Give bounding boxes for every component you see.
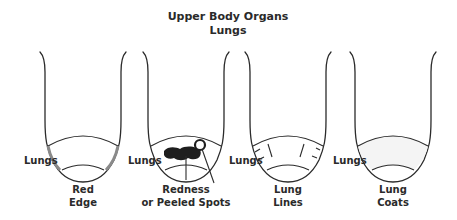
zone-label-lungs: Lungs [24, 155, 58, 166]
lung-line [312, 156, 317, 158]
lung-line [255, 149, 260, 152]
caption-line2: Edge [69, 197, 97, 208]
zone-label-lungs: Lungs [229, 155, 263, 166]
tongue-red-edge: Lungs Red Edge [24, 52, 126, 208]
caption-line2: Coats [377, 197, 409, 208]
lung-zone-upper-boundary [151, 136, 221, 146]
lung-zone-upper-boundary [253, 136, 323, 146]
red-edge-right-shading [106, 146, 118, 170]
caption-line2: or Peeled Spots [142, 197, 231, 208]
lung-line [300, 144, 304, 157]
tongue-redness-or-peeled-spots: Lungs Redness or Peeled Spots [128, 52, 231, 208]
caption-line2: Lines [273, 197, 303, 208]
diagram-title-line2: Lungs [209, 24, 247, 37]
diagram-title-line1: Upper Body Organs [168, 10, 289, 23]
zone-label-lungs: Lungs [128, 155, 162, 166]
lung-line [268, 144, 272, 157]
lung-zone-upper-boundary [48, 136, 118, 146]
caption-line1: Lung [274, 184, 302, 195]
tongue-lung-lines: Lungs Lung Lines [229, 52, 331, 208]
tongue-diagram: Upper Body Organs Lungs Lungs Red Edge L… [0, 0, 457, 220]
peeled-spot-circle [195, 140, 205, 150]
lung-zone-lower-boundary [267, 165, 309, 170]
lung-line [316, 148, 320, 150]
tongue-lung-coats: Lungs Lung Coats [333, 52, 436, 208]
pointer-line-peeled-spot [202, 149, 214, 183]
caption-line1: Redness [162, 184, 209, 195]
caption-line1: Lung [379, 184, 407, 195]
zone-label-lungs: Lungs [333, 155, 367, 166]
caption-line1: Red [72, 184, 94, 195]
lung-zone-lower-boundary [62, 165, 104, 170]
